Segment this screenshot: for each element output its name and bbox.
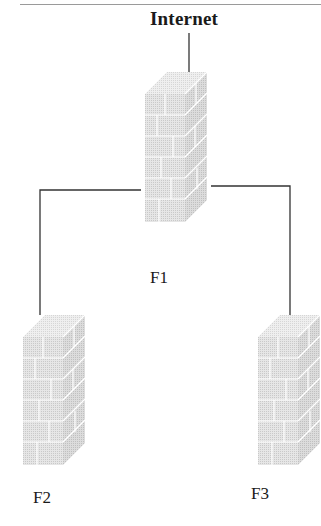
network-diagram (0, 0, 321, 526)
firewall-f1-label: F1 (150, 268, 168, 288)
firewall-f2-label: F2 (33, 488, 51, 508)
firewall-f1 (145, 72, 207, 222)
firewall-f2 (23, 315, 85, 465)
firewall-f3 (258, 315, 320, 465)
firewall-f3-label: F3 (251, 484, 269, 504)
